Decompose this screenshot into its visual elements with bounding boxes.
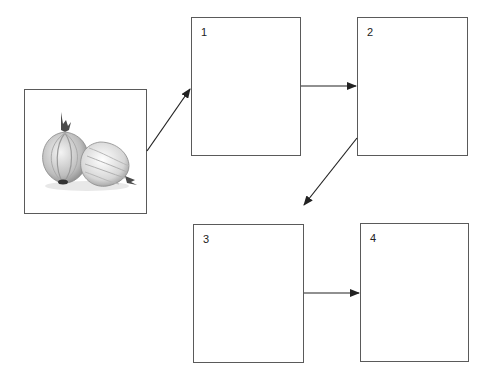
arrow-image-to-1 — [147, 89, 190, 151]
arrow-2-to-3 — [304, 138, 357, 205]
connector-arrows — [0, 0, 492, 388]
